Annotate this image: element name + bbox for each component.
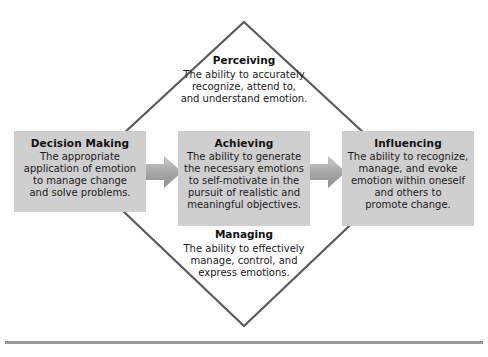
bottom-divider-rule [5, 341, 483, 344]
box-influencing-title: Influencing [346, 137, 470, 149]
text-managing-title: Managing [164, 228, 324, 241]
box-decision-making-title: Decision Making [18, 137, 142, 149]
box-influencing-description: The ability to recognize, manage, and ev… [346, 151, 470, 210]
text-perceiving-description: The ability to accurately recognize, att… [164, 69, 324, 105]
text-managing-description: The ability to effectively manage, contr… [164, 243, 324, 279]
diagram-container: Decision Making The appropriate applicat… [0, 0, 488, 357]
box-achieving-description: The ability to generate the necessary em… [182, 151, 306, 210]
box-decision-making: Decision Making The appropriate applicat… [14, 131, 146, 212]
box-decision-making-description: The appropriate application of emotion t… [18, 151, 142, 198]
text-block-perceiving: Perceiving The ability to accurately rec… [164, 54, 324, 105]
box-influencing: Influencing The ability to recognize, ma… [342, 131, 474, 226]
box-achieving-title: Achieving [182, 137, 306, 149]
arrow-decision-to-achieving [140, 156, 182, 188]
text-perceiving-title: Perceiving [164, 54, 324, 67]
box-achieving: Achieving The ability to generate the ne… [178, 131, 310, 226]
arrow-achieving-to-influencing [304, 156, 346, 188]
text-block-managing: Managing The ability to effectively mana… [164, 228, 324, 279]
